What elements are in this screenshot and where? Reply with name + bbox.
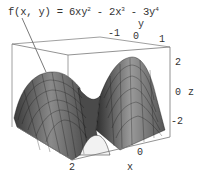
z-axis-label: z	[188, 88, 194, 98]
surface-mesh	[14, 57, 165, 160]
plot-canvas	[0, 0, 198, 181]
y-tick-1: 1	[159, 35, 165, 45]
y-tick-neg1: -1	[108, 29, 120, 39]
y-tick-0: 0	[133, 32, 139, 42]
z-tick-0: 0	[175, 88, 181, 98]
z-tick-neg2: -2	[171, 117, 183, 127]
x-axis-label: x	[127, 163, 133, 173]
y-axis-label: y	[138, 20, 144, 30]
surface-plot-figure: f(x, y) = 6xy2 - 2x3 - 3y4	[0, 0, 198, 181]
z-tick-2: 2	[175, 58, 181, 68]
annotation-leader-line	[22, 18, 46, 72]
x-tick-2: 2	[69, 163, 75, 173]
x-tick-0: 0	[137, 148, 143, 158]
